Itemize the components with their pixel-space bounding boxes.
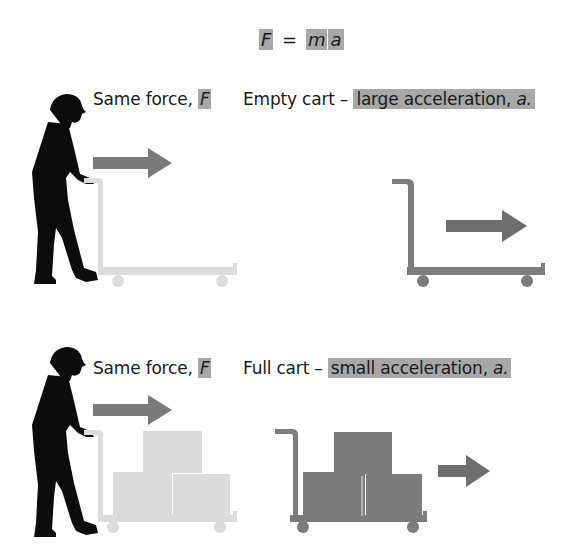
bottom-acceleration-arrow-icon [0,0,585,552]
